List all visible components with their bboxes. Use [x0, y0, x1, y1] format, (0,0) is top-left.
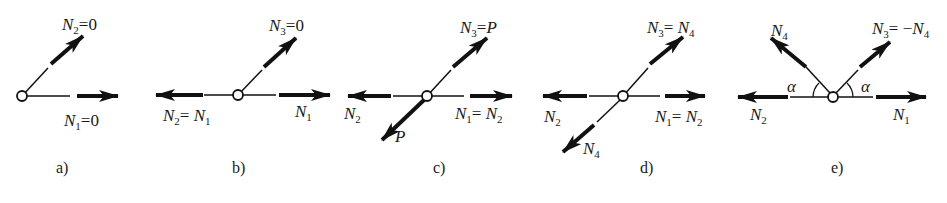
caption-e: e) [831, 160, 843, 176]
label-p-c: P [395, 128, 405, 145]
label-n1-e: N1 [893, 106, 910, 126]
label-n3-c: N3=P [460, 19, 497, 39]
member-line [806, 67, 830, 93]
force-arrow-n3 [860, 42, 890, 67]
joint-node [17, 91, 27, 101]
label-n4-e: N4 [771, 22, 788, 42]
panel-e [738, 38, 926, 102]
label-n3-d: N3= N4 [647, 19, 695, 39]
truss-joint-figure: N2=0 N1=0 N3=0 N2= N1 N1 N3=P N2 N1= N2 … [0, 0, 947, 203]
label-n3-b: N3=0 [269, 17, 304, 37]
force-arrow-n4 [771, 38, 806, 67]
label-n2-c: N2 [344, 105, 361, 125]
label-n2-a: N2=0 [62, 16, 97, 36]
angle-arc-left [813, 83, 819, 97]
angle-arc-right [847, 83, 853, 97]
label-n2-b: N2= N1 [163, 107, 211, 127]
panel-d [543, 37, 705, 152]
label-alpha-right: α [861, 78, 870, 95]
label-n1-c: N1= N2 [455, 105, 503, 125]
label-alpha-left: α [787, 78, 796, 95]
joint-node [618, 91, 628, 101]
joint-node [828, 92, 838, 102]
caption-c: c) [433, 160, 445, 176]
label-n4-d: N4 [583, 140, 600, 160]
joint-node [233, 90, 243, 100]
label-n1-d: N1= N2 [655, 108, 703, 128]
force-arrow-n3 [650, 37, 683, 64]
caption-a: a) [56, 160, 68, 176]
label-n1-a: N1=0 [64, 112, 99, 132]
joint-node [422, 91, 432, 101]
member-line [597, 100, 620, 122]
force-arrow-n3 [264, 38, 296, 67]
caption-d: d) [640, 160, 653, 176]
panel-b [156, 38, 330, 100]
label-n2-d: N2 [544, 108, 561, 128]
force-arrow-n3 [453, 38, 487, 67]
label-n3-e: N3= −N4 [872, 20, 929, 40]
member-line [836, 70, 858, 93]
label-n1-b: N1 [295, 103, 312, 123]
caption-b: b) [232, 160, 245, 176]
label-n2-e: N2 [750, 106, 767, 126]
panel-a [17, 36, 118, 101]
force-arrow-n2 [51, 36, 83, 64]
